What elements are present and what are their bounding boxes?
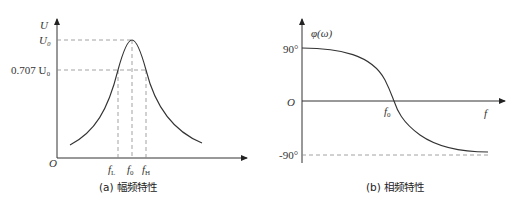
caption-b: (b) 相频特性 [366, 181, 424, 193]
phase-response-panel: φ(ω) 90° O -90° f0 f (b) 相频特性 [279, 19, 505, 193]
guide-lines [57, 40, 146, 158]
tick-label-90: 90° [283, 43, 298, 55]
origin-label: O [49, 157, 57, 169]
x-axis-label: f [484, 107, 489, 119]
amplitude-curve [70, 40, 202, 145]
frequency-response-figure: U U₀ 0.707 U₀ O fL f0 fH (a) 幅频特性 φ(ω) 9… [0, 0, 517, 204]
caption-a: (a) 幅频特性 [99, 181, 157, 193]
origin-label: O [287, 96, 295, 108]
tick-label-fh: fH [142, 163, 150, 177]
tick-label-0707u0: 0.707 U₀ [11, 64, 50, 76]
tick-label-f0: f0 [384, 105, 391, 119]
tick-label-f0: f0 [127, 163, 134, 177]
tick-label-fl: fL [108, 163, 115, 177]
tick-label-u0: U₀ [39, 34, 51, 46]
y-axis-label: U [40, 19, 49, 31]
tick-label-minus-90: -90° [279, 149, 298, 161]
y-axis-label: φ(ω) [311, 27, 333, 40]
amplitude-response-panel: U U₀ 0.707 U₀ O fL f0 fH (a) 幅频特性 [11, 19, 247, 193]
phase-curve [302, 48, 488, 152]
